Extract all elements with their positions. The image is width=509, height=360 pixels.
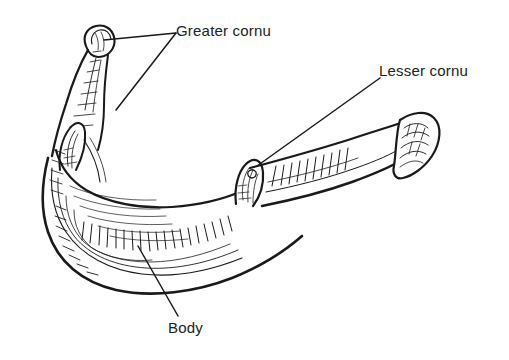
label-greater-cornu: Greater cornu	[176, 22, 271, 39]
hyoid-bone-figure: Greater cornu Lesser cornu Body	[0, 0, 509, 360]
label-lesser-cornu: Lesser cornu	[379, 62, 468, 79]
label-body: Body	[168, 319, 203, 336]
hyoid-bone-illustration	[0, 0, 509, 360]
